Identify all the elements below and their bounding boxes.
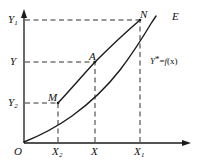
x-axis — [24, 140, 191, 146]
function-curve — [24, 16, 156, 142]
point-label-M: M — [48, 92, 57, 103]
chord-MN — [58, 20, 140, 103]
point-label-N: N — [140, 9, 147, 20]
function-label: Y*=f(x) — [150, 55, 178, 66]
y-axis — [21, 9, 27, 143]
graph-canvas — [0, 0, 198, 166]
x-tick-label-x1: X1 — [134, 146, 144, 159]
origin-label: O — [14, 146, 22, 157]
point-label-A: A — [89, 51, 96, 62]
y-tick-label-y2: Y2 — [8, 97, 18, 110]
y-tick-label-y1: Y1 — [8, 14, 18, 27]
x-tick-label-x2: X2 — [52, 146, 62, 159]
x-tick-label-x: X — [91, 146, 98, 159]
y-tick-label-y: Y — [10, 56, 16, 69]
curve-label-E: E — [172, 11, 179, 22]
math-figure: Y1 Y Y2 X2 X X1 O M A N E Y*=f(x) — [0, 0, 198, 166]
